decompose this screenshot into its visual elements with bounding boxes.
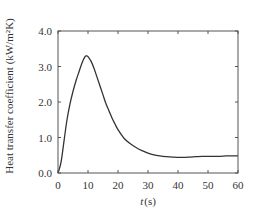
x-axis-label: t(s) bbox=[140, 195, 156, 208]
x-tick-label: 40 bbox=[173, 179, 185, 191]
x-axis: 0102030405060 bbox=[55, 31, 244, 191]
data-series bbox=[58, 56, 238, 173]
y-axis-label: Heat transfer coefficient (kW/m²K) bbox=[3, 18, 16, 174]
y-tick-label: 2.0 bbox=[38, 96, 52, 108]
y-tick-label: 0.0 bbox=[38, 167, 52, 179]
heat-transfer-curve bbox=[58, 56, 238, 173]
x-tick-label: 60 bbox=[233, 179, 245, 191]
x-axis-unit: (s) bbox=[144, 195, 156, 208]
y-tick-label: 3.0 bbox=[38, 61, 52, 73]
x-tick-label: 10 bbox=[83, 179, 95, 191]
x-tick-label: 30 bbox=[143, 179, 155, 191]
y-tick-label: 4.0 bbox=[38, 25, 52, 37]
plot-frame bbox=[58, 31, 238, 173]
x-tick-label: 0 bbox=[55, 179, 61, 191]
y-tick-label: 1.0 bbox=[38, 132, 52, 144]
line-chart: 0102030405060 0.01.02.03.04.0 t(s) Heat … bbox=[0, 0, 254, 218]
x-tick-label: 20 bbox=[113, 179, 125, 191]
x-tick-label: 50 bbox=[203, 179, 215, 191]
